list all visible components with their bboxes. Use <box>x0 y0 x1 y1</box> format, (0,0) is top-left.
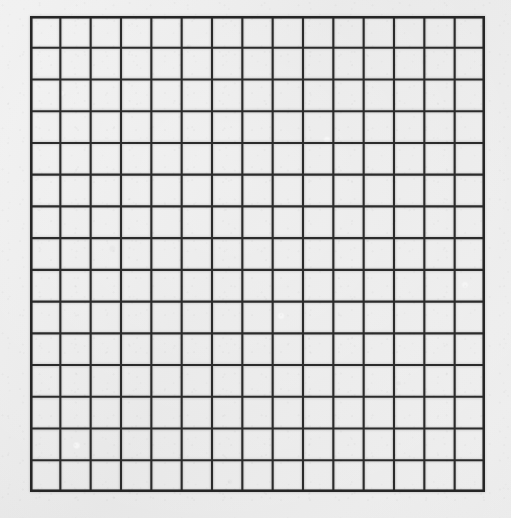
grid-lines-layer <box>30 16 485 492</box>
grid-paper-page <box>0 0 511 518</box>
grid-sheet <box>30 16 485 492</box>
grid-outer-border <box>31 17 484 491</box>
